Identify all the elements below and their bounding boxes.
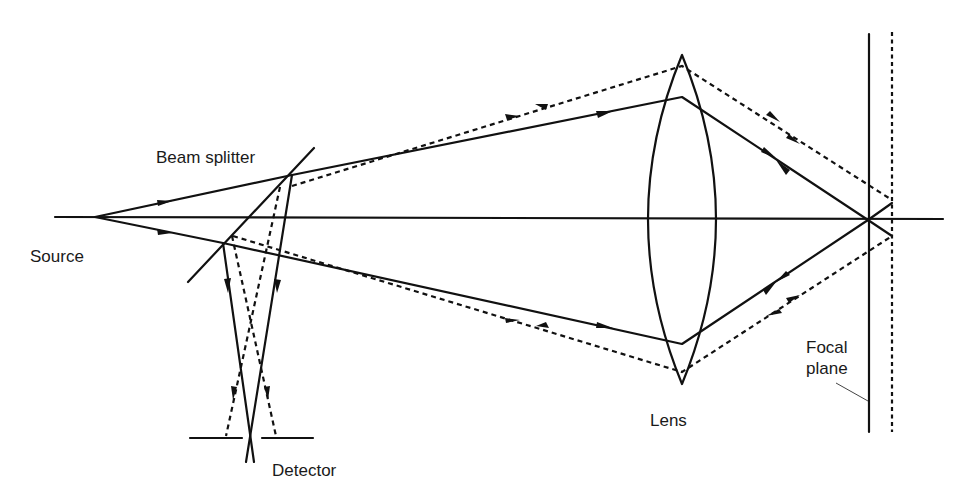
ray-detector-dashed-left bbox=[226, 187, 280, 436]
confocal-optics-diagram: Beam splitter Source Lens Detector Focal… bbox=[0, 0, 974, 494]
label-beam-splitter: Beam splitter bbox=[156, 148, 256, 167]
label-focal-plane-2: plane bbox=[806, 359, 848, 378]
ray-solid-cross-upper bbox=[868, 203, 892, 220]
label-focal-plane-1: Focal bbox=[806, 338, 848, 357]
arrow-icon bbox=[766, 111, 780, 122]
arrow-icon bbox=[157, 200, 172, 206]
focal-plane-leader bbox=[836, 383, 868, 401]
arrow-icon bbox=[596, 322, 613, 328]
arrow-icon bbox=[536, 322, 549, 328]
ray-upper-dashed bbox=[292, 66, 892, 200]
label-source: Source bbox=[30, 247, 84, 266]
ray-lower-dashed bbox=[233, 236, 892, 372]
arrow-icon bbox=[786, 295, 800, 303]
arrow-icon bbox=[786, 134, 800, 144]
ray-lower-solid bbox=[95, 217, 868, 344]
beam-splitter bbox=[188, 148, 314, 282]
label-lens: Lens bbox=[650, 411, 687, 430]
arrow-icon bbox=[766, 309, 782, 316]
ray-solid-cross-lower bbox=[868, 220, 892, 236]
optical-axis bbox=[55, 217, 943, 219]
arrow-icon bbox=[596, 111, 613, 118]
label-detector: Detector bbox=[272, 461, 337, 480]
arrow-icon bbox=[761, 147, 776, 158]
